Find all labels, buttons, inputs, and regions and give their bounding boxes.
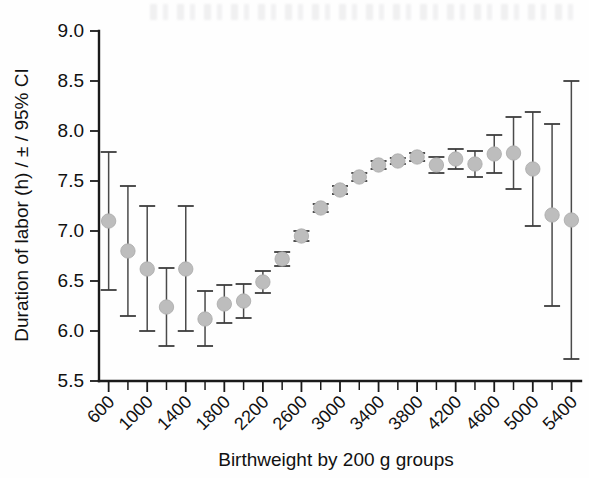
x-tick-label: 1800 — [192, 392, 234, 434]
data-point-errorbar — [139, 206, 155, 331]
x-tick-label: 2200 — [230, 392, 272, 434]
x-tick-label: 4200 — [423, 392, 465, 434]
data-point-errorbar — [351, 170, 367, 184]
data-point-errorbar — [332, 183, 348, 197]
x-tick-label: 1400 — [153, 392, 195, 434]
x-axis: 6001000140018002200260030003400380042004… — [83, 381, 581, 434]
data-point-errorbar — [216, 285, 232, 323]
data-point-errorbar — [371, 158, 387, 172]
x-tick-label: 3000 — [307, 392, 349, 434]
data-point-errorbar — [158, 268, 174, 346]
x-tick-label: 1000 — [115, 392, 157, 434]
y-axis: 9.08.58.07.57.06.56.05.5 — [58, 20, 99, 391]
data-point-errorbar — [448, 149, 464, 169]
data-point-errorbar — [390, 154, 406, 168]
x-tick-label: 3800 — [384, 392, 426, 434]
y-tick-label: 8.0 — [58, 120, 84, 141]
data-point-errorbar — [506, 117, 522, 189]
data-point-errorbar — [255, 271, 271, 293]
data-point-errorbar — [293, 229, 309, 243]
data-point-errorbar — [178, 206, 194, 331]
data-point-errorbar — [313, 201, 329, 215]
y-tick-label: 6.5 — [58, 270, 84, 291]
x-tick-label: 5000 — [500, 392, 542, 434]
y-tick-label: 9.0 — [58, 20, 84, 41]
y-tick-label: 8.5 — [58, 70, 84, 91]
y-axis-title: Duration of labor (h) / ± / 95% CI — [11, 68, 32, 341]
x-tick-label: 5400 — [539, 392, 581, 434]
data-point-errorbar — [544, 124, 560, 306]
data-point-errorbar — [428, 157, 444, 173]
y-tick-label: 6.0 — [58, 320, 84, 341]
x-tick-label: 3400 — [346, 392, 388, 434]
data-point-errorbar — [101, 152, 117, 290]
data-point-errorbar — [236, 284, 252, 318]
y-tick-label: 5.5 — [58, 370, 84, 391]
data-point-errorbar — [120, 186, 136, 316]
data-point-errorbar — [197, 291, 213, 346]
y-tick-label: 7.5 — [58, 170, 84, 191]
chart-plot-area: 9.08.58.07.57.06.56.05.5 600100014001800… — [0, 0, 589, 478]
data-point-errorbar — [274, 252, 290, 266]
x-tick-label: 2600 — [269, 392, 311, 434]
data-point-errorbar — [525, 112, 541, 226]
data-point-errorbar — [467, 151, 483, 177]
data-point-errorbar — [409, 150, 425, 164]
data-series-errorbars — [101, 81, 580, 359]
x-tick-label: 4600 — [462, 392, 504, 434]
data-point-errorbar — [563, 81, 579, 359]
x-tick-label: 600 — [83, 392, 118, 427]
data-point-errorbar — [486, 135, 502, 173]
x-axis-title: Birthweight by 200 g groups — [218, 449, 454, 470]
chart-figure: 9.08.58.07.57.06.56.05.5 600100014001800… — [0, 0, 589, 478]
y-tick-label: 7.0 — [58, 220, 84, 241]
